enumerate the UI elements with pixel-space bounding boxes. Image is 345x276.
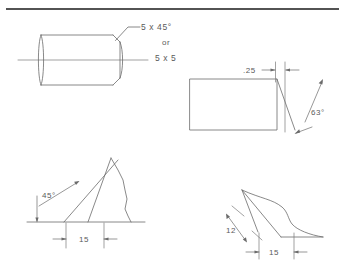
parallelogram-break-edge bbox=[242, 190, 323, 237]
dimension-arrow-right bbox=[285, 68, 290, 71]
rectangle-cut-face bbox=[277, 79, 295, 130]
parallelogram-dimension-label-12: 12 bbox=[226, 226, 236, 235]
chamfer-note-conjunction: or bbox=[162, 38, 170, 47]
triangle-angle-arrow-upper bbox=[74, 181, 79, 185]
drawing-sheet: 5 x 45° or 5 x 5 .25 63° bbox=[0, 0, 345, 276]
chamfered-cylinder-view bbox=[18, 27, 148, 85]
chamfer-leader-line bbox=[116, 27, 141, 41]
cylinder-chamfer-bottom bbox=[113, 78, 120, 85]
cylinder-chamfer-top bbox=[113, 35, 120, 42]
rectangle-angled-cut-view bbox=[190, 62, 323, 134]
triangle-angle-label: 45° bbox=[42, 191, 56, 200]
parallelogram-dim12-extension-upper bbox=[232, 206, 244, 216]
parallelogram-dimension-label-15: 15 bbox=[269, 248, 279, 257]
dimension-arrow-left bbox=[271, 68, 276, 71]
drawing-canvas: 5 x 45° or 5 x 5 .25 63° bbox=[0, 0, 345, 276]
chamfer-note-primary: 5 x 45° bbox=[141, 22, 172, 32]
parallelogram-crease bbox=[242, 190, 258, 232]
parallelogram-dim12-extension-lower bbox=[252, 231, 262, 240]
rectangle-body bbox=[190, 79, 277, 130]
triangle-dimension-label: 15 bbox=[79, 235, 89, 244]
angle-arrow-upper bbox=[319, 79, 323, 85]
chamfer-note-alternate: 5 x 5 bbox=[155, 53, 176, 63]
rectangle-angle-label: 63° bbox=[311, 108, 325, 117]
triangle-break-edge bbox=[111, 158, 131, 222]
rectangle-dimension-label: .25 bbox=[243, 66, 256, 75]
